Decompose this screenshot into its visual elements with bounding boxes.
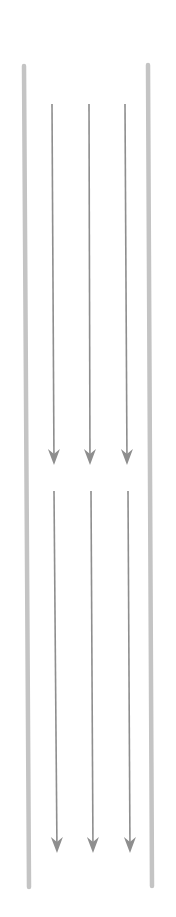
flow-arrow-3 xyxy=(124,491,136,853)
flow-diagram xyxy=(0,0,176,917)
left-rail xyxy=(24,66,29,887)
flow-arrow-1 xyxy=(48,104,60,465)
rails xyxy=(24,65,152,887)
lower-flow xyxy=(51,491,136,853)
arrow-shaft xyxy=(91,491,93,842)
arrow-shaft xyxy=(52,104,54,454)
right-rail xyxy=(148,65,152,886)
arrow-shaft xyxy=(125,104,127,454)
arrow-shaft xyxy=(89,104,90,454)
flow-arrow-3 xyxy=(121,104,133,465)
arrows xyxy=(48,104,136,853)
upper-flow xyxy=(48,104,133,465)
flow-arrow-2 xyxy=(87,491,99,853)
flow-arrow-1 xyxy=(51,491,63,853)
arrow-shaft xyxy=(128,491,130,842)
flow-arrow-2 xyxy=(84,104,96,465)
arrow-shaft xyxy=(54,491,57,842)
